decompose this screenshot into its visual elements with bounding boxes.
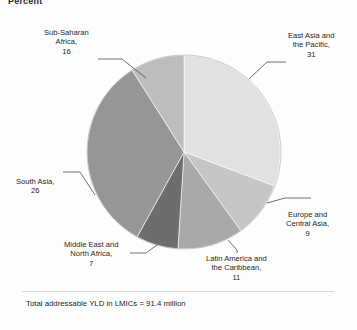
pie-label-line-2: Central Asia,	[286, 219, 329, 228]
pie-label-line-1: Middle East and	[64, 240, 118, 249]
pie-label-line-2: North Africa,	[64, 249, 118, 258]
pie-label-value: 31	[288, 50, 334, 59]
leader-line-europe	[267, 198, 311, 203]
pie-label-sub-saharan-africa[interactable]: Sub-Saharan Africa, 16	[44, 28, 89, 56]
chart-footnote: Total addressable YLD in LMICs = 91.4 mi…	[26, 299, 186, 308]
pie-label-europe-and-central-asia[interactable]: Europe and Central Asia, 9	[286, 210, 329, 238]
pie-label-value: 11	[206, 273, 267, 282]
pie-label-line-1: South Asia,	[16, 177, 54, 186]
pie-label-line-1: Latin America and	[206, 254, 267, 263]
footnote-divider	[22, 291, 334, 292]
pie-label-line-2: the Pacific,	[288, 40, 334, 49]
pie-label-latin-america-and-the-caribbean[interactable]: Latin America and the Caribbean, 11	[206, 254, 267, 282]
leader-line-mena	[130, 245, 157, 253]
pie-label-value: 16	[44, 47, 89, 56]
pie-label-line-1: East Asia and	[288, 31, 334, 40]
pie-label-east-asia-and-the-pacific[interactable]: East Asia and the Pacific, 31	[288, 31, 334, 59]
pie-label-value: 9	[286, 229, 329, 238]
leader-line-east-asia	[249, 62, 286, 79]
pie-label-south-asia[interactable]: South Asia, 26	[16, 177, 54, 196]
pie-label-value: 7	[64, 259, 118, 268]
pie-label-middle-east-and-north-africa[interactable]: Middle East and North Africa, 7	[64, 240, 118, 268]
pie-label-value: 26	[16, 186, 54, 195]
pie-label-line-2: the Caribbean,	[206, 263, 267, 272]
pie-label-line-1: Europe and	[286, 210, 329, 219]
chart-figure: Percent East Asia and the Pacific, 31 Eu…	[0, 0, 357, 330]
leader-line-latin	[228, 240, 237, 253]
pie-label-line-2: Africa,	[44, 37, 89, 46]
pie-label-line-1: Sub-Saharan	[44, 28, 89, 37]
